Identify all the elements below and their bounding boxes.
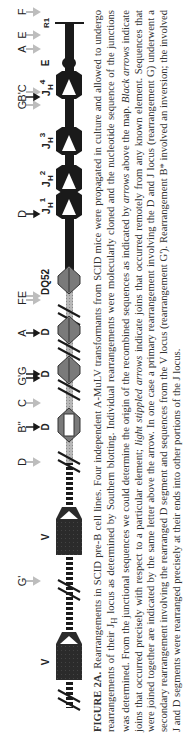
label-a-right: A <box>16 45 28 52</box>
label-d-left: D <box>16 458 28 466</box>
enhancer-oval <box>62 57 76 69</box>
label-jh1: JH1 <box>38 198 55 214</box>
label-c: C <box>16 399 28 407</box>
label-d-mid: D <box>16 210 28 218</box>
d-segment-3 <box>58 316 80 344</box>
figure-2a: G' D B" C G'G A FE D G B'C A E F V V D D… <box>0 0 183 740</box>
caption-part3: above the map. <box>120 103 131 174</box>
label-d2: D <box>40 370 51 377</box>
v-segment-1 <box>56 632 82 680</box>
label-jh3: JH3 <box>38 133 55 149</box>
d-segment-2 <box>58 356 80 384</box>
caption-sub-h: H <box>109 617 119 623</box>
figure-caption: FIGURE 2A. Rearrangements in SCID pre-B … <box>92 10 183 732</box>
label-a-left: A <box>16 329 28 336</box>
label-jh2: JH2 <box>38 171 55 187</box>
label-fe: FE <box>16 291 28 305</box>
jh2-segment <box>56 165 82 193</box>
label-enhancer: E <box>40 60 51 67</box>
label-e: E <box>16 31 28 38</box>
d-segment-open <box>58 408 80 442</box>
caption-light-arrows: light stippled arrows <box>133 356 144 446</box>
caption-black-arrows: Black arrows <box>120 46 131 103</box>
label-r1: R1 <box>42 18 51 28</box>
jh4-segment <box>56 71 82 99</box>
label-v1: V <box>40 659 51 666</box>
label-dq52: DQ52 <box>40 269 51 295</box>
label-d1: D <box>40 423 51 430</box>
v-segment-2 <box>56 507 82 555</box>
label-jh4: JH4 <box>38 80 55 96</box>
jh1-segment <box>56 191 82 219</box>
dq52-segment <box>58 266 80 294</box>
label-b-prime-c: B'C <box>16 84 28 101</box>
label-g: G <box>16 101 28 110</box>
label-f: F <box>16 9 28 16</box>
label-g-prime-g: G'G <box>16 366 28 385</box>
label-b-dprime: B" <box>16 421 28 432</box>
label-v2: V <box>40 534 51 541</box>
jh3-segment <box>56 127 82 155</box>
label-g-prime: G' <box>16 576 28 587</box>
label-d3: D <box>40 328 51 335</box>
caption-lead: FIGURE 2A. <box>92 672 103 732</box>
caption-arrows: arrows <box>120 174 131 204</box>
